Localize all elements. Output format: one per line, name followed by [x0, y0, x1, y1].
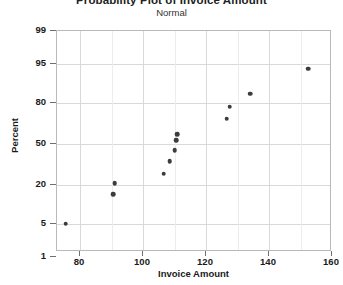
x-tick-label: 120: [185, 256, 225, 267]
y-tick-label: 1: [4, 250, 46, 261]
gridline-vertical-minor: [112, 31, 113, 250]
x-tick-label: 80: [59, 256, 99, 267]
data-point: [174, 138, 179, 143]
y-tick: [50, 63, 56, 64]
gridline-horizontal: [57, 103, 330, 104]
gridline-horizontal: [57, 185, 330, 186]
data-point: [306, 66, 311, 71]
gridline-vertical-minor: [238, 31, 239, 250]
gridline-horizontal: [57, 64, 330, 65]
gridline-vertical: [80, 31, 81, 250]
data-point: [227, 104, 232, 109]
y-tick-label: 95: [4, 57, 46, 68]
y-tick: [50, 256, 56, 257]
gridline-horizontal: [57, 224, 330, 225]
chart-subtitle: Normal: [0, 7, 343, 18]
x-tick-label: 160: [311, 256, 343, 267]
y-tick-label: 5: [4, 217, 46, 228]
data-point: [175, 132, 180, 137]
gridline-vertical-minor: [301, 31, 302, 250]
gridline-vertical: [206, 31, 207, 250]
data-point: [161, 172, 166, 177]
data-point: [111, 192, 116, 197]
y-tick: [50, 223, 56, 224]
y-tick: [50, 143, 56, 144]
data-point: [64, 222, 69, 227]
chart-title: Probability Plot of Invoice Amount: [0, 0, 343, 6]
gridline-horizontal: [57, 144, 330, 145]
data-point: [112, 181, 117, 186]
plot-area: [56, 30, 331, 251]
data-point: [224, 116, 229, 121]
y-tick-label: 20: [4, 178, 46, 189]
x-tick-label: 100: [122, 256, 162, 267]
data-point: [168, 159, 173, 164]
y-axis-title: Percent: [9, 106, 20, 166]
gridline-vertical: [143, 31, 144, 250]
y-tick: [50, 30, 56, 31]
gridline-vertical: [269, 31, 270, 250]
probability-plot-figure: Probability Plot of Invoice Amount Norma…: [0, 0, 343, 285]
x-axis-title: Invoice Amount: [56, 268, 331, 279]
data-point: [248, 91, 253, 96]
y-tick: [50, 102, 56, 103]
y-tick: [50, 184, 56, 185]
y-tick-label: 99: [4, 24, 46, 35]
x-tick-label: 140: [248, 256, 288, 267]
data-point: [172, 148, 177, 153]
